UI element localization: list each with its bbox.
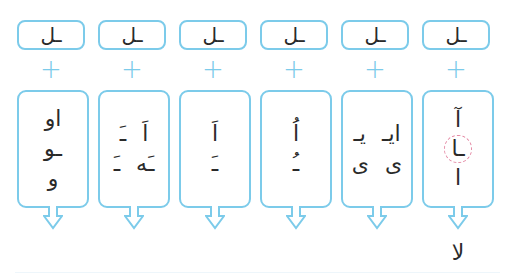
- lam-box: ـل: [179, 20, 247, 50]
- lam-letter: ـل: [203, 23, 224, 47]
- column-4: ـل + اُ ـُ: [260, 0, 332, 274]
- lam-box: ـل: [260, 20, 328, 50]
- down-arrow-icon: [43, 206, 63, 230]
- lam-box: ـل: [98, 20, 166, 50]
- plus-sign: +: [17, 56, 85, 82]
- vowel-forms-box: او ـو و: [17, 90, 89, 208]
- highlighted-form: ـا: [444, 135, 471, 163]
- vowel-forms-box: اَ ـَ: [179, 90, 251, 208]
- down-arrow-icon: [286, 206, 306, 230]
- vowel-forms-box: آ ـا ا: [422, 90, 494, 208]
- result-ligature: لا: [422, 240, 494, 265]
- form: ـَه: [136, 149, 154, 179]
- down-arrow-icon: [367, 206, 387, 230]
- lam-letter: ـل: [284, 23, 305, 47]
- down-arrow-icon: [124, 206, 144, 230]
- vowel-forms-box: ایـیـ یی: [341, 90, 413, 208]
- form: ی: [385, 149, 402, 179]
- down-arrow-icon: [205, 206, 225, 230]
- down-arrow-icon: [448, 206, 468, 230]
- column-6: ـل + آ ـا ا لا: [422, 0, 494, 274]
- form: ـَ: [212, 149, 218, 179]
- lam-letter: ـل: [365, 23, 386, 47]
- form: ـَ: [114, 149, 120, 179]
- plus-sign: +: [341, 56, 409, 82]
- column-2: ـل + اَـَ ـَهـَ: [98, 0, 170, 274]
- form: ا: [455, 163, 461, 193]
- form: و: [48, 164, 59, 194]
- form: ی: [352, 149, 369, 179]
- column-3: ـل + اَ ـَ: [179, 0, 251, 274]
- lam-box: ـل: [422, 20, 490, 50]
- column-1: ـل + او ـو و: [17, 0, 89, 274]
- form: ـُ: [293, 149, 299, 179]
- lam-box: ـل: [341, 20, 409, 50]
- form: اَ: [212, 119, 218, 149]
- lam-letter: ـل: [446, 23, 467, 47]
- vowel-forms-box: اَـَ ـَهـَ: [98, 90, 170, 208]
- form: ایـ: [382, 119, 401, 149]
- form: او: [45, 104, 62, 134]
- form: ـو: [44, 134, 62, 164]
- lam-box: ـل: [17, 20, 85, 50]
- form: یـ: [353, 119, 366, 149]
- lam-letter: ـل: [41, 23, 62, 47]
- plus-sign: +: [98, 56, 166, 82]
- plus-sign: +: [260, 56, 328, 82]
- form: آ: [455, 105, 461, 135]
- lam-letter: ـل: [122, 23, 143, 47]
- form: ـَ: [120, 119, 126, 149]
- form: اُ: [293, 119, 299, 149]
- plus-sign: +: [179, 56, 247, 82]
- form: اَ: [142, 119, 148, 149]
- column-5: ـل + ایـیـ یی: [341, 0, 413, 274]
- plus-sign: +: [422, 56, 490, 82]
- divider: [15, 272, 500, 273]
- vowel-forms-box: اُ ـُ: [260, 90, 332, 208]
